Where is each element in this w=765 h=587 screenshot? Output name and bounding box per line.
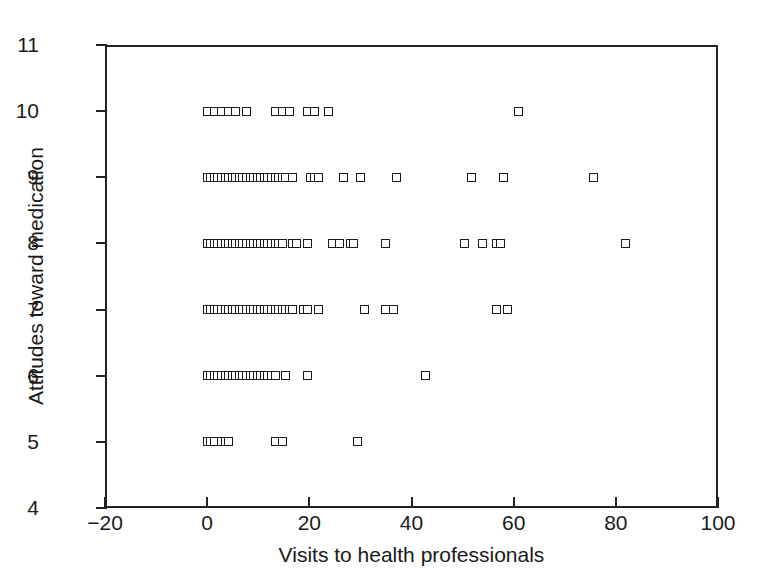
y-tick-label: 9 [27, 166, 39, 187]
plot-area-frame [105, 45, 718, 508]
x-tick-mark [615, 497, 617, 508]
x-tick-mark [308, 497, 310, 508]
x-tick-label: 80 [604, 512, 627, 533]
x-tick-label: 60 [502, 512, 525, 533]
y-tick-mark [96, 441, 107, 443]
y-tick-mark [96, 242, 107, 244]
x-tick-label: 100 [700, 512, 735, 533]
x-tick-label: 40 [400, 512, 423, 533]
x-tick-mark [206, 497, 208, 508]
scatter-plot-figure: Attitudes toward medication 4567891011 −… [0, 0, 765, 587]
y-tick-mark [96, 309, 107, 311]
y-tick-label: 4 [27, 497, 39, 518]
x-tick-label: 20 [298, 512, 321, 533]
y-tick-label: 6 [27, 365, 39, 386]
x-tick-mark [717, 497, 719, 508]
y-tick-mark [96, 375, 107, 377]
x-tick-label: 0 [201, 512, 213, 533]
x-axis-label: Visits to health professionals [105, 543, 718, 567]
y-tick-label: 10 [16, 100, 39, 121]
y-tick-mark [96, 44, 107, 46]
x-tick-mark [513, 497, 515, 508]
y-tick-label: 8 [27, 232, 39, 253]
x-tick-label: −20 [87, 512, 123, 533]
y-tick-label: 11 [17, 34, 39, 55]
y-tick-mark [96, 176, 107, 178]
y-tick-label: 5 [27, 431, 39, 452]
y-tick-mark [96, 110, 107, 112]
x-tick-mark [411, 497, 413, 508]
y-tick-label: 7 [27, 299, 39, 320]
x-tick-mark [104, 497, 106, 508]
